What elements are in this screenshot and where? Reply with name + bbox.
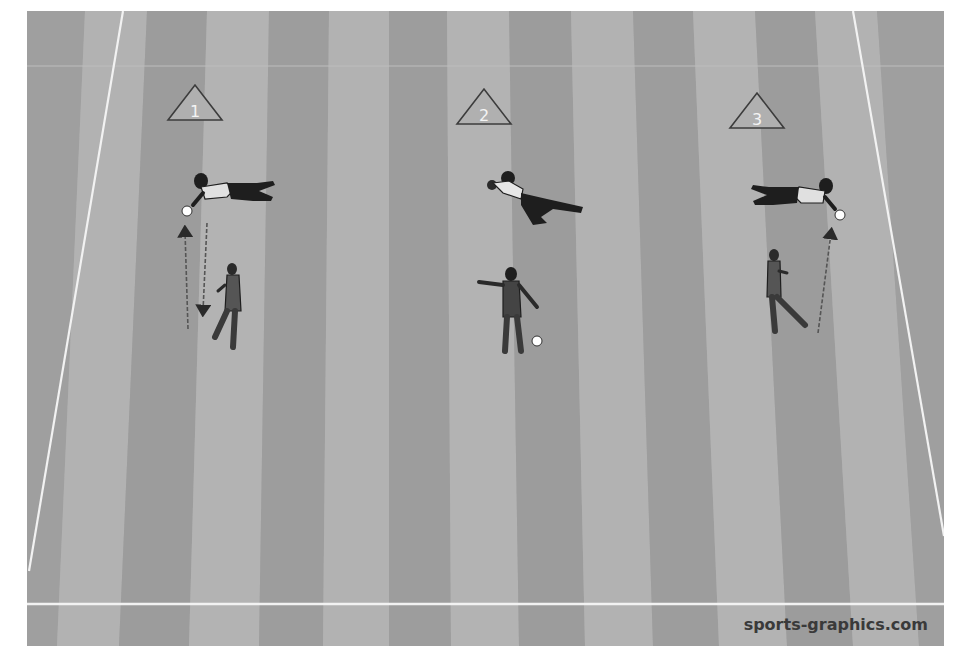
watermark: sports-graphics.com (744, 615, 928, 634)
pitch-diagram: 1 2 3 (27, 11, 944, 646)
pitch: 1 2 3 (27, 11, 944, 646)
cone-3-label: 3 (752, 110, 762, 129)
cone-2-label: 2 (479, 106, 489, 125)
cone-1-label: 1 (190, 102, 200, 121)
